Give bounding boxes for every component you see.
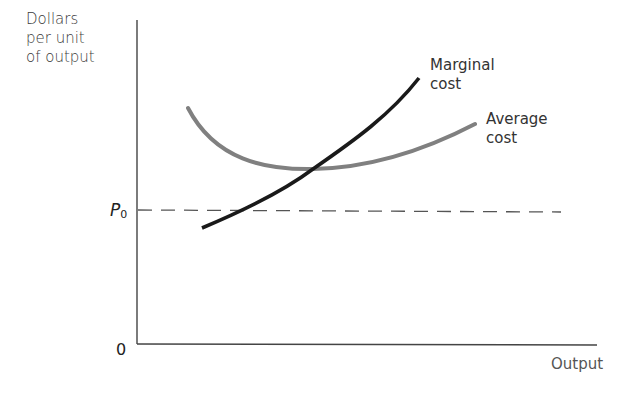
x-axis: [137, 344, 597, 345]
origin-label: 0: [116, 340, 126, 359]
p0-subscript: 0: [120, 208, 127, 221]
p0-dashed-line: [138, 210, 561, 212]
marginal-cost-label: Marginal cost: [430, 56, 495, 94]
average-cost-label: Average cost: [486, 110, 548, 148]
x-axis-label: Output: [551, 355, 603, 373]
p0-main: P: [110, 200, 120, 220]
y-axis-label: Dollars per unit of output: [26, 10, 95, 67]
p0-label: P0: [110, 200, 127, 221]
average-cost-curve: [188, 108, 475, 169]
cost-curves-chart: [0, 0, 636, 394]
